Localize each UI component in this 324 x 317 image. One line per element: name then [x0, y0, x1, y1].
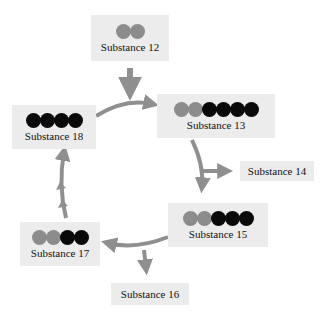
node-label: Substance 12: [101, 41, 159, 53]
node-label: Substance 16: [121, 288, 179, 300]
node-substance-17: Substance 17: [20, 222, 100, 266]
arrow-s15-s17: [108, 237, 168, 245]
molecule-icon: [32, 230, 88, 245]
node-substance-18: Substance 18: [12, 105, 96, 149]
node-substance-13: Substance 13: [157, 94, 275, 138]
node-label: Substance 15: [189, 228, 247, 240]
node-substance-16: Substance 16: [111, 283, 189, 305]
node-substance-14: Substance 14: [240, 161, 314, 181]
molecule-icon: [26, 113, 82, 128]
node-label: Substance 18: [25, 130, 83, 142]
node-label: Substance 13: [187, 119, 245, 131]
arrow-s15-s16: [144, 250, 146, 268]
arrow-s18-s13: [96, 103, 152, 117]
arrow-s13-s15: [192, 140, 202, 186]
node-label: Substance 14: [248, 165, 306, 177]
molecule-icon: [116, 24, 144, 39]
node-substance-15: Substance 15: [168, 203, 268, 247]
node-label: Substance 17: [31, 247, 89, 259]
molecule-icon: [183, 211, 253, 226]
node-substance-12: Substance 12: [91, 15, 169, 61]
molecule-icon: [174, 102, 258, 117]
